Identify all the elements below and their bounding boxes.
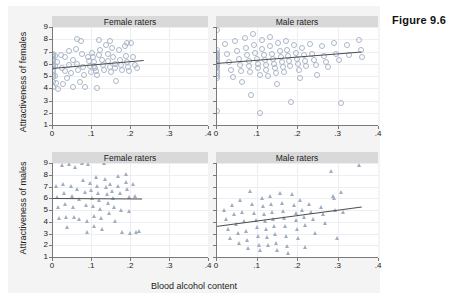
data-point (98, 207, 102, 211)
data-point (275, 248, 279, 252)
y-tick (49, 198, 52, 199)
plot-area-females-by-female-raters (52, 27, 208, 125)
panel-males-by-male-raters: Male raters0.1.2.3.4 (216, 152, 378, 271)
y-tick (49, 210, 52, 211)
x-tick-label: 0 (208, 262, 224, 270)
panel-females-by-male-raters: Male raters0.1.2.3.4 (216, 16, 378, 139)
plot-area-females-by-male-raters (216, 27, 378, 125)
y-axis-title-row2: Attractiveness of males (18, 148, 28, 268)
gridline-vertical (297, 163, 298, 257)
data-point (274, 81, 280, 87)
x-tick-label: .1 (249, 130, 265, 138)
data-point (137, 229, 141, 233)
x-tick-label: 0 (208, 130, 224, 138)
y-tick (213, 198, 216, 199)
data-point (283, 224, 287, 228)
x-tick-label: .1 (83, 262, 99, 270)
data-point (228, 67, 234, 73)
data-point (295, 61, 301, 67)
data-point (82, 84, 88, 90)
y-tick-label-column: 123456789 (36, 163, 48, 257)
panel-females-by-female-raters: Female raters0.1.2.3.4 (52, 16, 208, 139)
y-tick (213, 52, 216, 53)
y-tick-label: 9 (44, 159, 48, 167)
data-point (274, 241, 278, 245)
data-point (73, 165, 77, 169)
x-tick-label: 0 (44, 130, 60, 138)
data-point (110, 54, 116, 60)
data-point (108, 182, 112, 186)
y-tick (49, 101, 52, 102)
y-tick (49, 125, 52, 126)
data-point (257, 72, 263, 78)
data-point (234, 48, 240, 54)
x-tick-label: .1 (249, 262, 265, 270)
data-point (303, 223, 307, 227)
y-tick-label: 2 (44, 109, 48, 117)
gridline-vertical (338, 27, 339, 125)
data-point (298, 198, 302, 202)
data-point (260, 196, 264, 200)
data-point (290, 192, 294, 196)
data-point (238, 198, 242, 202)
data-point (344, 42, 350, 48)
data-point (297, 75, 303, 81)
data-point (228, 236, 232, 240)
gridline-vertical (91, 163, 92, 257)
y-tick (49, 76, 52, 77)
data-point (250, 202, 254, 206)
data-point (292, 203, 296, 207)
data-point (60, 163, 64, 167)
data-point (266, 243, 270, 247)
data-point (65, 225, 69, 229)
data-point (52, 73, 58, 79)
data-point (68, 70, 74, 76)
y-tick (213, 210, 216, 211)
data-point (130, 54, 136, 60)
y-tick (49, 27, 52, 28)
regression-line (52, 198, 142, 200)
data-point (313, 231, 317, 235)
data-point (255, 65, 261, 71)
gridline-vertical (169, 163, 170, 257)
data-point (286, 251, 290, 255)
data-point (56, 205, 60, 209)
y-tick-label: 1 (44, 253, 48, 261)
data-point (237, 241, 241, 245)
data-point (124, 40, 130, 46)
x-tick-label: .3 (330, 262, 346, 270)
y-tick (49, 234, 52, 235)
data-point (307, 41, 313, 47)
data-point (267, 34, 273, 40)
data-point (299, 45, 305, 51)
y-tick (213, 245, 216, 246)
data-point (113, 219, 117, 223)
data-point (243, 45, 249, 51)
data-point (89, 188, 93, 192)
data-point (81, 178, 85, 182)
data-point (112, 205, 116, 209)
data-point (84, 203, 88, 207)
data-point (222, 208, 226, 212)
y-tick-label: 8 (44, 35, 48, 43)
panel-header-males-by-male-raters: Male raters (216, 152, 378, 163)
data-point (273, 232, 277, 236)
y-tick (213, 27, 216, 28)
y-tick-label: 3 (44, 230, 48, 238)
data-point (248, 189, 252, 193)
data-point (62, 54, 68, 60)
y-tick (213, 222, 216, 223)
data-point (85, 230, 89, 234)
y-tick (49, 245, 52, 246)
data-point (246, 246, 250, 250)
y-axis-line (216, 163, 217, 257)
data-point (287, 63, 293, 69)
data-point (91, 204, 95, 208)
data-point (257, 243, 261, 247)
data-point (88, 181, 92, 185)
data-point (72, 215, 76, 219)
data-point (118, 191, 122, 195)
data-point (54, 184, 58, 188)
data-point (332, 196, 336, 200)
data-point (94, 175, 98, 179)
